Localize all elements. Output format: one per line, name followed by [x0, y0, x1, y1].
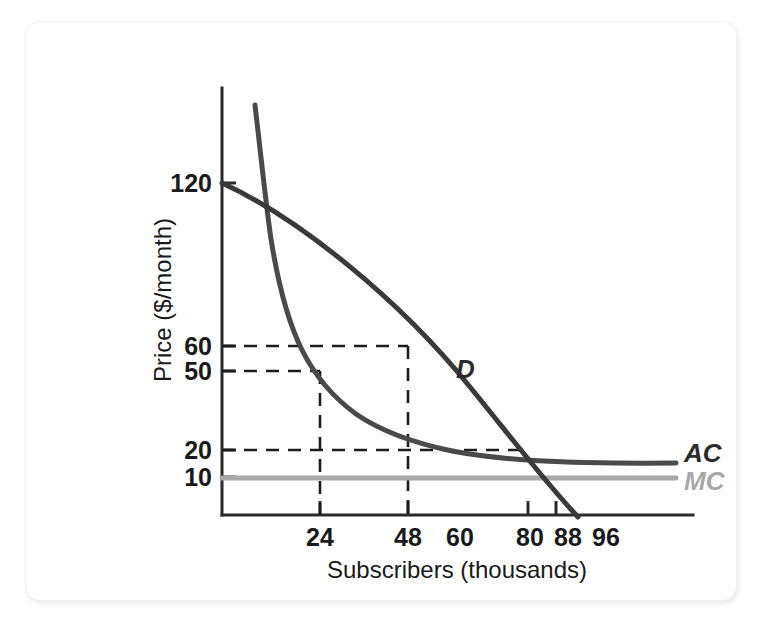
figure-card	[26, 22, 736, 600]
